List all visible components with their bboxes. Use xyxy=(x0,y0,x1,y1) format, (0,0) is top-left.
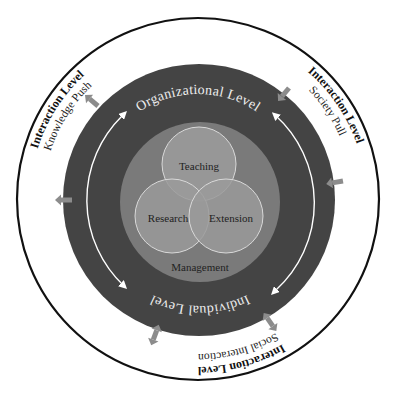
label-extension: Extension xyxy=(209,212,253,224)
label-teaching: Teaching xyxy=(179,160,220,172)
label-management: Management xyxy=(171,261,228,273)
label-research: Research xyxy=(148,212,189,224)
interaction-levels-diagram: Teaching Research Extension Management O… xyxy=(0,0,393,399)
